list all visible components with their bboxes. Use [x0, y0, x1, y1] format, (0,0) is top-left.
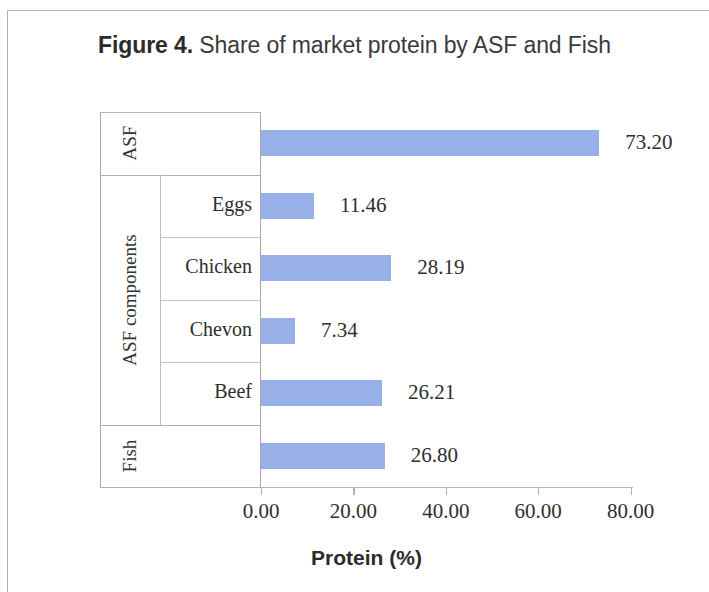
bar-value-label: 28.19: [417, 255, 464, 280]
category-separator: [160, 237, 260, 238]
category-separator: [160, 362, 260, 363]
x-axis-title: Protein (%): [100, 546, 633, 570]
x-tick-label: 20.00: [303, 499, 403, 524]
group-label-text: Fish: [119, 439, 141, 472]
bar-value-label: 7.34: [321, 318, 358, 343]
bar-value-label: 26.21: [408, 380, 455, 405]
group-label-text: ASF components: [119, 234, 141, 365]
bar-value-label: 26.80: [411, 443, 458, 468]
x-tick-label: 0.00: [211, 499, 311, 524]
category-band-divider: [160, 112, 161, 175]
bar-chicken: [261, 255, 391, 281]
category-label-beef: Beef: [160, 380, 252, 403]
category-band-divider: [160, 425, 161, 488]
x-tick: [631, 488, 632, 495]
category-separator: [160, 300, 260, 301]
x-tick-label: 40.00: [396, 499, 496, 524]
group-label-fish: Fish: [100, 425, 160, 488]
x-tick-label: 60.00: [488, 499, 588, 524]
group-label-asf-components: ASF components: [100, 175, 160, 425]
category-label-eggs: Eggs: [160, 193, 252, 216]
category-label-chevon: Chevon: [160, 318, 252, 341]
bar-chart: ASFASF componentsFish EggsChickenChevonB…: [0, 0, 709, 592]
bar-eggs: [261, 193, 314, 219]
group-label-asf: ASF: [100, 112, 160, 175]
group-separator: [100, 487, 260, 488]
bar-fish: [261, 443, 385, 469]
group-label-text: ASF: [119, 126, 141, 161]
category-label-chicken: Chicken: [160, 255, 252, 278]
bar-value-label: 11.46: [340, 193, 386, 218]
x-tick-label: 80.00: [581, 499, 681, 524]
bar-value-label: 73.20: [625, 130, 672, 155]
bar-chevon: [261, 318, 295, 344]
x-tick: [353, 488, 354, 495]
bar-beef: [261, 380, 382, 406]
bar-asf: [261, 130, 599, 156]
x-tick: [446, 488, 447, 495]
x-tick: [538, 488, 539, 495]
x-tick: [261, 488, 262, 495]
value-axis-zero-line: [260, 112, 261, 487]
